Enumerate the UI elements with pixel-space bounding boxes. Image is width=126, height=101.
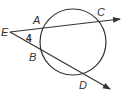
geometry-diagram: E A C B D 4	[0, 0, 126, 101]
point-label-a: A	[32, 14, 40, 26]
secant-ray-ed	[10, 32, 110, 89]
point-label-c: C	[97, 6, 105, 18]
point-label-d: D	[79, 79, 87, 91]
circle	[40, 9, 106, 75]
point-label-e: E	[1, 26, 9, 38]
point-label-b: B	[29, 51, 36, 63]
angle-label-4: 4	[26, 33, 32, 44]
